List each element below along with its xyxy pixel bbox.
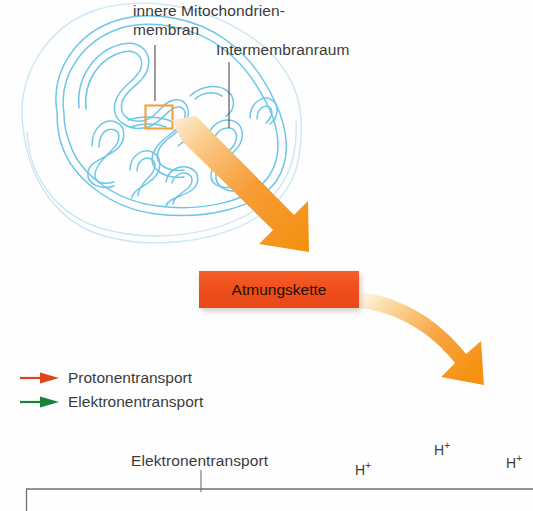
arrow-right-icon (20, 395, 60, 409)
ion-charge: + (444, 440, 450, 451)
label-intermembrane-space: Intermembranraum (216, 41, 349, 60)
label-inner-membrane-line2: membran (133, 21, 199, 38)
membrane-baseline-axis (26, 470, 533, 511)
legend-label-electron-transport: Elektronentransport (68, 393, 203, 411)
ion-symbol: H (355, 462, 365, 478)
respiratory-chain-label: Atmungskette (232, 281, 327, 299)
label-inner-membrane: innere Mitochondrien-membran (133, 2, 293, 40)
legend-item-proton-transport: Protonentransport (20, 366, 203, 390)
ion-symbol: H (506, 455, 516, 471)
label-inner-membrane-line1: innere Mitochondrien- (133, 2, 285, 19)
ion-symbol: H (434, 442, 444, 458)
respiratory-chain-box: Atmungskette (199, 271, 359, 308)
ion-label-hydrogen: H+ (506, 455, 522, 471)
legend: Protonentransport Elektronentransport (20, 366, 203, 414)
biology-figure: innere Mitochondrien-membran Intermembra… (0, 0, 533, 511)
legend-label-proton-transport: Protonentransport (68, 369, 192, 387)
ion-charge: + (516, 453, 522, 464)
flow-arrow-curved (359, 292, 484, 385)
ion-label-hydrogen: H+ (434, 442, 450, 458)
mitochondrion-diagram (0, 0, 533, 511)
label-electron-transport-axis: Elektronentransport (131, 452, 268, 471)
flow-arrow-down-right (172, 116, 309, 252)
ion-label-hydrogen: H+ (355, 462, 371, 478)
ion-charge: + (365, 460, 371, 471)
legend-item-electron-transport: Elektronentransport (20, 390, 203, 414)
arrow-right-icon (20, 371, 60, 385)
